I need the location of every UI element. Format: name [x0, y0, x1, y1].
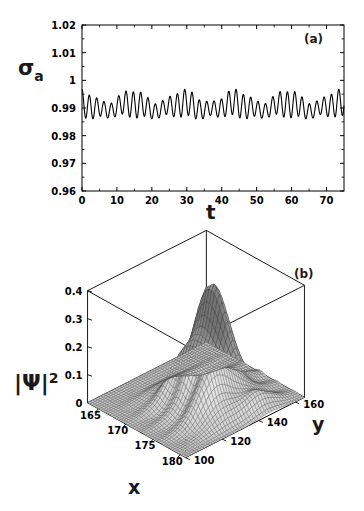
y-tick-label: 120: [230, 436, 251, 447]
x-tick-label: 20: [145, 195, 159, 206]
y-tick-label: 1.01: [51, 48, 76, 59]
sigma-a-curve: [82, 89, 344, 119]
y-tick: [222, 439, 226, 441]
y-tick-label: 160: [303, 399, 324, 410]
y-tick-label: 1.02: [51, 20, 76, 31]
x-tick-label: 50: [250, 195, 264, 206]
box-edge: [206, 230, 304, 285]
y-tick-label: 140: [267, 417, 288, 428]
y-tick: [186, 458, 190, 460]
z-tick-label: 0.2: [65, 342, 83, 353]
panel-b-zlabel: |Ψ|2: [14, 372, 59, 394]
y-tick-label: 0.96: [51, 186, 76, 197]
panel-b-surface-plot: 00.10.20.30.4165170175180100120140160 |Ψ…: [0, 232, 364, 511]
x-tick-label: 175: [135, 440, 156, 451]
x-tick-label: 180: [162, 456, 183, 467]
x-tick-label: 40: [215, 195, 229, 206]
z-tick: [88, 347, 93, 349]
sigma-subscript: a: [34, 68, 43, 84]
panel-a-tag: (a): [304, 32, 323, 46]
x-tick-label: 70: [320, 195, 334, 206]
y-tick-label: 0.99: [51, 103, 76, 114]
y-tick: [295, 402, 299, 404]
z-tick-label: 0: [76, 398, 83, 409]
z-tick-label: 0.1: [65, 370, 83, 381]
figure-container: 0102030405060700.960.970.980.9911.011.02…: [0, 0, 364, 511]
psi-symbol: |Ψ|: [14, 370, 49, 395]
y-tick-label: 1: [69, 75, 76, 86]
z-tick: [88, 375, 93, 377]
x-tick-label: 165: [80, 410, 101, 421]
box-edge: [88, 291, 186, 346]
x-tick-label: 170: [107, 425, 128, 436]
panel-b-tag: (b): [294, 267, 314, 281]
y-tick-label: 0.97: [51, 158, 76, 169]
panel-a-ylabel: σa: [18, 58, 44, 79]
z-tick-label: 0.3: [65, 314, 83, 325]
panel-a-xlabel: t: [206, 200, 216, 224]
x-tick-label: 0: [79, 195, 86, 206]
panel-a-line-plot: 0102030405060700.960.970.980.9911.011.02…: [0, 0, 364, 232]
x-tick-label: 30: [180, 195, 194, 206]
panel-b-xlabel: x: [128, 476, 140, 498]
y-tick-label: 0.98: [51, 131, 76, 142]
x-tick-label: 60: [285, 195, 299, 206]
y-tick: [259, 420, 263, 422]
psi-exponent: 2: [49, 370, 59, 386]
y-tick-label: 100: [194, 455, 215, 466]
sigma-symbol: σ: [18, 56, 34, 80]
box-edge: [88, 230, 207, 290]
z-tick-label: 0.4: [65, 286, 83, 297]
z-tick: [88, 319, 93, 321]
panel-b-ylabel: y: [312, 413, 324, 435]
x-tick-label: 10: [110, 195, 124, 206]
